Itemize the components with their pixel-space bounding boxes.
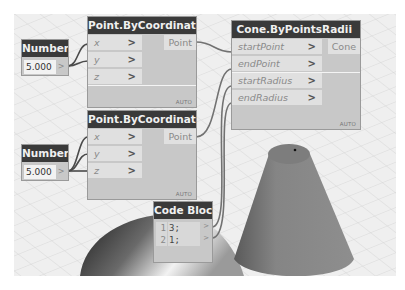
lacing-label[interactable]: AUTO bbox=[340, 121, 356, 127]
node-title: Number bbox=[22, 145, 68, 162]
node-title: Point.ByCoordinates bbox=[88, 17, 196, 34]
output-port-2[interactable]: > bbox=[203, 234, 209, 242]
node-title: Cone.ByPointsRadii bbox=[232, 21, 360, 38]
code-line-1[interactable]: 13; bbox=[156, 223, 206, 234]
chevron-right-icon: > bbox=[128, 163, 136, 178]
point-by-coordinates-node-2[interactable]: Point.ByCoordinates x> Point y> z> AUTO bbox=[88, 111, 196, 199]
output-port-cone[interactable]: Cone bbox=[328, 39, 360, 54]
chevron-right-icon: > bbox=[128, 129, 136, 144]
code-block-node[interactable]: Code Block 13; 21; > > bbox=[154, 202, 212, 262]
cone-by-points-radii-node[interactable]: Cone.ByPointsRadii startPoint> Cone endP… bbox=[232, 21, 360, 129]
number-value-input[interactable]: 5.000 bbox=[24, 165, 56, 179]
code-line-2[interactable]: 21; bbox=[156, 235, 206, 246]
output-port-point[interactable]: Point bbox=[164, 129, 196, 144]
input-port-endpoint[interactable]: endPoint> bbox=[232, 56, 322, 71]
node-title: Point.ByCoordinates bbox=[88, 111, 196, 128]
chevron-right-icon: > bbox=[308, 56, 316, 71]
chevron-right-icon: > bbox=[128, 146, 136, 161]
chevron-right-icon: > bbox=[308, 73, 316, 88]
chevron-right-icon: > bbox=[308, 90, 316, 105]
chevron-right-icon: > bbox=[128, 35, 136, 50]
workspace-canvas[interactable]: Number 5.000 > Point.ByCoordinates x> Po… bbox=[14, 14, 396, 276]
output-port[interactable]: > bbox=[56, 60, 66, 74]
input-port-z[interactable]: z> bbox=[88, 69, 142, 84]
input-port-startpoint[interactable]: startPoint> bbox=[232, 39, 322, 54]
divider bbox=[88, 85, 196, 86]
chevron-right-icon: > bbox=[308, 39, 316, 54]
chevron-right-icon: > bbox=[128, 52, 136, 67]
chevron-right-icon: > bbox=[128, 69, 136, 84]
number-node-2[interactable]: Number 5.000 > bbox=[22, 145, 68, 180]
input-port-startradius[interactable]: startRadius> bbox=[232, 73, 322, 88]
output-port-1[interactable]: > bbox=[203, 222, 209, 230]
lacing-label[interactable]: AUTO bbox=[176, 191, 192, 197]
input-port-endradius[interactable]: endRadius> bbox=[232, 90, 322, 105]
number-node-1[interactable]: Number 5.000 > bbox=[22, 40, 68, 75]
output-port[interactable]: > bbox=[56, 165, 66, 179]
input-port-y[interactable]: y> bbox=[88, 146, 142, 161]
input-port-z[interactable]: z> bbox=[88, 163, 142, 178]
node-title: Code Block bbox=[154, 202, 212, 219]
output-port-point[interactable]: Point bbox=[164, 35, 196, 50]
input-port-y[interactable]: y> bbox=[88, 52, 142, 67]
input-port-x[interactable]: x> bbox=[88, 35, 142, 50]
point-by-coordinates-node-1[interactable]: Point.ByCoordinates x> Point y> z> AUTO bbox=[88, 17, 196, 107]
input-port-x[interactable]: x> bbox=[88, 129, 142, 144]
node-title: Number bbox=[22, 40, 68, 57]
lacing-label[interactable]: AUTO bbox=[176, 99, 192, 105]
number-value-input[interactable]: 5.000 bbox=[24, 60, 56, 74]
